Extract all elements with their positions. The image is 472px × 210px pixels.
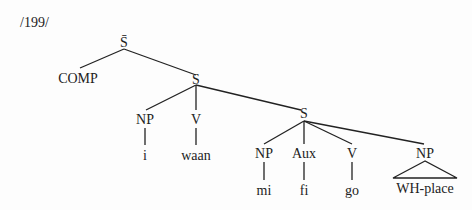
node-v-waan: V — [191, 112, 201, 127]
edge-s2-v — [304, 121, 352, 144]
edge-sbar-s — [124, 49, 196, 75]
node-v-go: V — [347, 146, 357, 161]
example-number: /199/ — [20, 15, 49, 30]
edge-s2-np — [264, 121, 304, 144]
word-wh-place: WH-place — [396, 181, 454, 196]
node-s-bar: S̄ — [120, 35, 128, 50]
edge-sbar-comp — [80, 49, 124, 68]
edge-s1-s2 — [196, 85, 301, 110]
node-s1: S — [192, 72, 200, 87]
node-np-mi: NP — [255, 146, 273, 161]
triangle-np-wh — [393, 161, 457, 178]
syntax-tree: /199/ S̄ COMP S NP i V waan S NP mi Aux … — [0, 0, 472, 210]
word-fi: fi — [300, 183, 309, 198]
word-go: go — [345, 183, 359, 198]
word-waan: waan — [181, 148, 211, 163]
node-comp: COMP — [58, 71, 98, 86]
edge-s1-np — [146, 85, 196, 110]
word-i: i — [143, 148, 147, 163]
node-np-wh: NP — [416, 146, 434, 161]
node-s2: S — [300, 106, 308, 121]
node-np-i: NP — [136, 112, 154, 127]
edge-s2-np2 — [304, 121, 424, 144]
node-aux-fi: Aux — [292, 146, 316, 161]
word-mi: mi — [257, 183, 272, 198]
